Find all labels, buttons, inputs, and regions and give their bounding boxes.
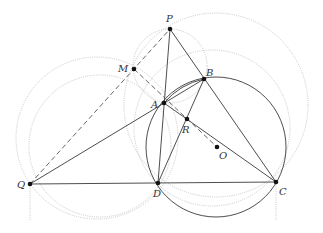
label-m: M [117, 63, 129, 74]
label-d: D [152, 188, 161, 199]
segment-qb [30, 79, 204, 184]
label-o: O [219, 150, 227, 161]
point-r [185, 117, 190, 122]
point-o [215, 145, 220, 150]
dotted-circles [16, 13, 308, 220]
label-c: C [279, 186, 287, 197]
label-p: P [165, 13, 173, 24]
segment-qc [30, 182, 276, 184]
point-q [28, 182, 33, 187]
point-a [162, 101, 167, 106]
point-d [156, 181, 161, 186]
dotted-circle-qad [29, 75, 171, 217]
dashed-segments [30, 29, 217, 184]
labels: P M B A R O Q D C [17, 13, 287, 199]
label-r: R [181, 124, 190, 135]
point-c [274, 180, 279, 185]
segment-ac [164, 103, 276, 182]
label-b: B [205, 67, 213, 78]
geometry-diagram: P M B A R O Q D C [0, 0, 323, 233]
label-a: A [150, 99, 158, 110]
point-m [132, 67, 137, 72]
label-q: Q [17, 179, 25, 190]
point-p [168, 27, 173, 32]
segment-qp [30, 29, 170, 184]
